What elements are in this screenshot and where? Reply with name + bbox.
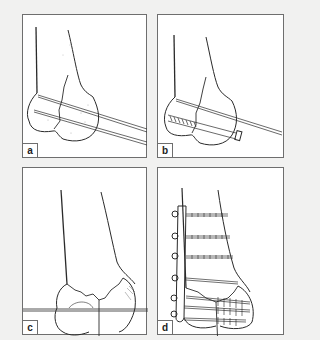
figure-panel-d: d [157,167,284,335]
panel-label-b: b [157,143,173,158]
panel-label-c: c [22,320,38,335]
bone-illustration-b [158,15,285,159]
bone-illustration-d [158,168,285,336]
figure-panel-b: b [157,14,284,158]
figure-panel-a: a [22,14,147,158]
figure-panel-c: c [22,167,147,335]
panel-label-a: a [22,143,38,158]
bone-illustration-a [23,15,148,159]
bone-illustration-c [23,168,148,336]
panel-label-d: d [157,320,173,335]
